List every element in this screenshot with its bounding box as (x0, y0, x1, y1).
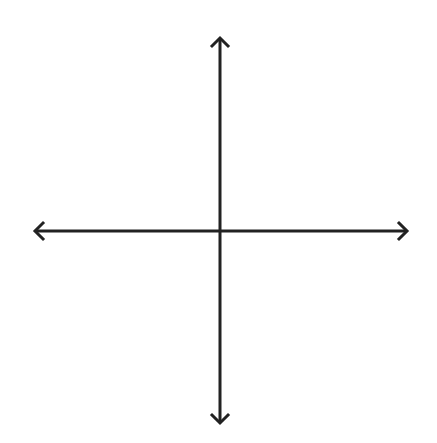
coordinate-plane (0, 0, 437, 443)
